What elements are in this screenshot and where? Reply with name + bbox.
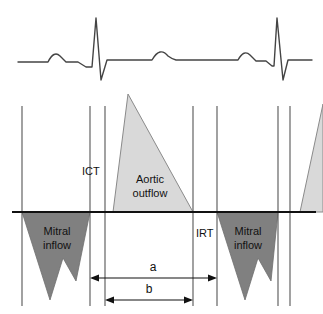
interval-b-arrowhead-left [105,296,114,303]
interval-a-arrow [90,274,217,281]
interval-b-arrowhead-right [184,296,193,303]
doppler-panel [12,94,323,306]
label-ict: ICT [82,165,100,177]
interval-a-arrowhead-left [90,274,99,281]
label-mitral-inflow-right-line2: inflow [234,239,262,251]
interval-b-arrow [105,296,193,303]
figure-canvas [0,0,323,314]
label-aortic-outflow-line2: outflow [133,187,168,199]
label-mitral-inflow-left-line2: inflow [43,239,71,251]
aortic-outflow-envelope-right [300,104,323,212]
label-irt: IRT [196,227,214,239]
label-interval-b: b [146,283,153,295]
cardiac-intervals-figure: ICT IRT Aortic outflow Mitral inflow Mit… [0,0,323,314]
label-mitral-inflow-left-line1: Mitral [44,225,71,237]
ecg-trace [18,18,312,80]
interval-a-arrowhead-right [208,274,217,281]
label-mitral-inflow-right-line1: Mitral [235,225,262,237]
label-interval-a: a [150,261,157,273]
ecg-panel [18,18,312,80]
label-aortic-outflow-line1: Aortic [136,173,164,185]
